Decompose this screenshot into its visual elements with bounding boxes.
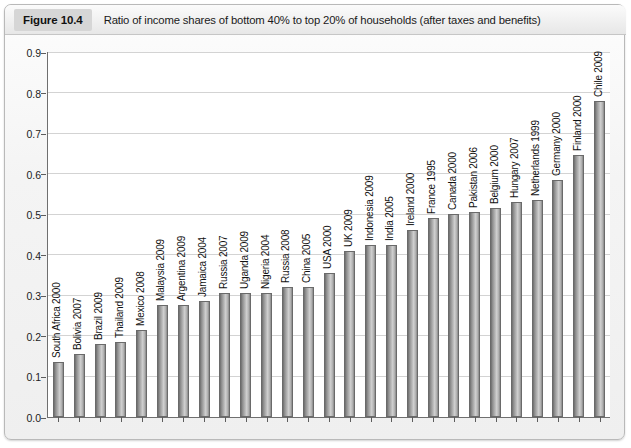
x-axis-category-label: Chile 2009: [592, 51, 603, 97]
bar-group[interactable]: France 1995: [428, 52, 439, 417]
x-axis-category-label: Malaysia 2009: [155, 240, 166, 302]
x-axis-tick-mark: [496, 417, 497, 422]
bar-group[interactable]: Brazil 2009: [95, 52, 106, 417]
y-axis-tick-mark: [41, 296, 46, 297]
bar[interactable]: [448, 214, 459, 417]
bar[interactable]: [74, 354, 85, 417]
bar-group[interactable]: Pakistan 2006: [469, 52, 480, 417]
x-axis-category-label: Finland 2000: [571, 96, 582, 151]
x-axis-tick-mark: [121, 417, 122, 422]
bar-group[interactable]: Uganda 2009: [240, 52, 251, 417]
bar-group[interactable]: Argentina 2009: [178, 52, 189, 417]
y-axis-tick-mark: [41, 93, 46, 94]
y-axis-tick-label: 0.2: [11, 331, 41, 343]
bar-group[interactable]: Bolivia 2007: [74, 52, 85, 417]
bar[interactable]: [490, 208, 501, 417]
x-axis-tick-mark: [287, 417, 288, 422]
bar-group[interactable]: Hungary 2007: [511, 52, 522, 417]
bar[interactable]: [594, 101, 605, 417]
x-axis-tick-mark: [371, 417, 372, 422]
x-axis-category-label: Netherlands 1999: [530, 120, 541, 196]
y-axis-tick-mark: [41, 174, 46, 175]
bar-group[interactable]: Netherlands 1999: [532, 52, 543, 417]
bar[interactable]: [282, 287, 293, 417]
bar-group[interactable]: China 2005: [303, 52, 314, 417]
bar-group[interactable]: Nigeria 2004: [261, 52, 272, 417]
bar-group[interactable]: Mexico 2008: [136, 52, 147, 417]
x-axis-tick-mark: [308, 417, 309, 422]
bar[interactable]: [469, 212, 480, 417]
bar[interactable]: [532, 200, 543, 417]
bar[interactable]: [199, 301, 210, 417]
bar[interactable]: [303, 287, 314, 417]
bar-group[interactable]: South Africa 2000: [53, 52, 64, 417]
bar[interactable]: [552, 180, 563, 417]
figure-panel: Figure 10.4 Ratio of income shares of bo…: [4, 4, 625, 440]
bar-group[interactable]: Germany 2000: [552, 52, 563, 417]
y-axis-tick-label: 0.9: [11, 47, 41, 59]
bar[interactable]: [511, 202, 522, 417]
x-axis-tick-mark: [579, 417, 580, 422]
bar-group[interactable]: Belgium 2000: [490, 52, 501, 417]
x-axis-category-label: Jamaica 2004: [197, 238, 208, 298]
bar[interactable]: [407, 230, 418, 417]
bar[interactable]: [261, 293, 272, 417]
x-axis-category-label: Thailand 2009: [113, 277, 124, 338]
figure-caption-bar: Figure 10.4 Ratio of income shares of bo…: [5, 5, 626, 35]
bar-group[interactable]: Chile 2009: [594, 52, 605, 417]
y-axis-tick-label: 0.6: [11, 169, 41, 181]
bar[interactable]: [324, 273, 335, 417]
bar-group[interactable]: USA 2000: [324, 52, 335, 417]
x-axis-category-label: Belgium 2000: [488, 145, 499, 204]
chart-plot-area: 0.00.10.20.30.40.50.60.70.80.9 South Afr…: [5, 35, 626, 440]
x-axis-category-label: Ireland 2000: [405, 173, 416, 226]
bar[interactable]: [53, 362, 64, 417]
bar[interactable]: [428, 218, 439, 417]
y-axis-tick-mark: [41, 418, 46, 419]
x-axis-tick-mark: [183, 417, 184, 422]
x-axis-category-label: France 1995: [426, 160, 437, 214]
x-axis-category-label: Brazil 2009: [93, 292, 104, 340]
bar-group[interactable]: Jamaica 2004: [199, 52, 210, 417]
bar-group[interactable]: Finland 2000: [573, 52, 584, 417]
bar-group[interactable]: Thailand 2009: [115, 52, 126, 417]
x-axis-category-label: Canada 2000: [446, 152, 457, 210]
bar[interactable]: [386, 245, 397, 417]
bar[interactable]: [95, 344, 106, 417]
x-axis-category-label: Russia 2007: [217, 236, 228, 289]
bar-group[interactable]: Malaysia 2009: [157, 52, 168, 417]
x-axis-category-label: Nigeria 2004: [259, 235, 270, 289]
bar[interactable]: [178, 305, 189, 417]
y-axis-tick-mark: [41, 255, 46, 256]
bar[interactable]: [115, 342, 126, 417]
bar-group[interactable]: Russia 2008: [282, 52, 293, 417]
x-axis-tick-mark: [142, 417, 143, 422]
bar[interactable]: [344, 251, 355, 417]
x-axis-category-label: South Africa 2000: [51, 283, 62, 359]
x-axis-tick-mark: [412, 417, 413, 422]
bar[interactable]: [219, 293, 230, 417]
x-axis-category-label: Mexico 2008: [134, 271, 145, 326]
bar-group[interactable]: Russia 2007: [219, 52, 230, 417]
y-axis-tick-label: 0.5: [11, 209, 41, 221]
bar-group[interactable]: Indonesia 2009: [365, 52, 376, 417]
bar-group[interactable]: UK 2009: [344, 52, 355, 417]
x-axis-tick-mark: [329, 417, 330, 422]
figure-number-badge: Figure 10.4: [14, 9, 92, 31]
x-axis-tick-mark: [454, 417, 455, 422]
bar-group[interactable]: Ireland 2000: [407, 52, 418, 417]
bar-group[interactable]: India 2005: [386, 52, 397, 417]
bar[interactable]: [365, 245, 376, 417]
bar[interactable]: [573, 155, 584, 417]
x-axis-category-label: China 2005: [301, 234, 312, 283]
x-axis-category-label: Argentina 2009: [176, 236, 187, 301]
bar[interactable]: [240, 293, 251, 417]
bar-group[interactable]: Canada 2000: [448, 52, 459, 417]
x-axis-category-label: USA 2000: [322, 226, 333, 269]
bar[interactable]: [136, 330, 147, 417]
bar[interactable]: [157, 305, 168, 417]
x-axis-category-label: Uganda 2009: [238, 231, 249, 289]
y-axis-tick-mark: [41, 215, 46, 216]
x-axis-category-label: India 2005: [384, 196, 395, 241]
y-axis-tick-label: 0.8: [11, 88, 41, 100]
